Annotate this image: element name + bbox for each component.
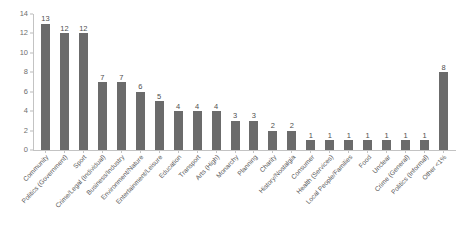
x-axis-tickmark bbox=[197, 150, 198, 153]
x-axis-labels: CommunityPolitics (Government)SportCrime… bbox=[33, 154, 456, 236]
bar-value-label: 2 bbox=[290, 122, 294, 130]
bar-slot: 6 bbox=[131, 14, 150, 150]
plot-area: 1312127765444332211111118 bbox=[33, 14, 456, 150]
bar[interactable]: 1 bbox=[306, 140, 315, 150]
bar-value-label: 4 bbox=[214, 103, 218, 111]
bar-slot: 4 bbox=[188, 14, 207, 150]
bar-slot: 1 bbox=[320, 14, 339, 150]
bar[interactable]: 4 bbox=[193, 111, 202, 150]
x-axis-tickmark bbox=[45, 150, 46, 153]
bar[interactable]: 4 bbox=[174, 111, 183, 150]
bar[interactable]: 5 bbox=[155, 101, 164, 150]
y-axis-tick-label: 10 bbox=[20, 49, 28, 57]
y-axis-tick-label: 0 bbox=[24, 146, 28, 154]
bar-slot: 8 bbox=[434, 14, 453, 150]
bar[interactable]: 7 bbox=[98, 82, 107, 150]
bar-slot: 3 bbox=[226, 14, 245, 150]
bar-value-label: 1 bbox=[385, 132, 389, 140]
bar[interactable]: 3 bbox=[249, 121, 258, 150]
bar-value-label: 1 bbox=[347, 132, 351, 140]
x-axis-tickmark bbox=[235, 150, 236, 153]
x-axis-tickmark bbox=[178, 150, 179, 153]
x-axis-tickmark bbox=[83, 150, 84, 153]
bar-slot: 1 bbox=[377, 14, 396, 150]
x-axis-category-label: Food bbox=[357, 154, 372, 170]
bar-slot: 7 bbox=[112, 14, 131, 150]
y-axis-tick-label: 8 bbox=[24, 69, 28, 77]
bar-slot: 1 bbox=[415, 14, 434, 150]
bar-slot: 2 bbox=[263, 14, 282, 150]
x-axis-tickmark bbox=[405, 150, 406, 153]
bar-slot: 5 bbox=[150, 14, 169, 150]
x-axis-label-slot: Other <1% bbox=[434, 154, 453, 236]
bar-value-label: 4 bbox=[176, 103, 180, 111]
y-axis: 02468101214 bbox=[0, 14, 33, 150]
bar[interactable]: 13 bbox=[41, 24, 50, 150]
bar-slot: 7 bbox=[93, 14, 112, 150]
x-axis-tickmark bbox=[121, 150, 122, 153]
y-axis-tick-label: 2 bbox=[24, 127, 28, 135]
bar[interactable]: 2 bbox=[268, 131, 277, 150]
bar-value-label: 2 bbox=[271, 122, 275, 130]
bar-value-label: 12 bbox=[60, 25, 68, 33]
bar-value-label: 5 bbox=[157, 93, 161, 101]
y-axis-tick-label: 14 bbox=[20, 10, 28, 18]
bar-series: 1312127765444332211111118 bbox=[33, 14, 456, 150]
bar-slot: 1 bbox=[301, 14, 320, 150]
bar[interactable]: 1 bbox=[363, 140, 372, 150]
bar[interactable]: 6 bbox=[136, 92, 145, 150]
bar[interactable]: 3 bbox=[231, 121, 240, 150]
bar-slot: 3 bbox=[244, 14, 263, 150]
bar-value-label: 1 bbox=[328, 132, 332, 140]
bar-value-label: 1 bbox=[422, 132, 426, 140]
bar-value-label: 1 bbox=[403, 132, 407, 140]
x-axis-tickmark bbox=[443, 150, 444, 153]
x-axis-tickmark bbox=[64, 150, 65, 153]
bar[interactable]: 1 bbox=[401, 140, 410, 150]
bar-value-label: 1 bbox=[309, 132, 313, 140]
bar-value-label: 7 bbox=[100, 74, 104, 82]
bar-value-label: 1 bbox=[366, 132, 370, 140]
bar-value-label: 6 bbox=[138, 83, 142, 91]
y-axis-tick-label: 12 bbox=[20, 30, 28, 38]
bar[interactable]: 7 bbox=[117, 82, 126, 150]
bar-value-label: 12 bbox=[79, 25, 87, 33]
bar-value-label: 7 bbox=[119, 74, 123, 82]
bar-chart: 02468101214 1312127765444332211111118 Co… bbox=[0, 0, 460, 236]
bar-value-label: 8 bbox=[441, 64, 445, 72]
bar[interactable]: 12 bbox=[79, 33, 88, 150]
bar[interactable]: 12 bbox=[60, 33, 69, 150]
x-axis-label-slot: Local People/Families bbox=[339, 154, 358, 236]
bar[interactable]: 8 bbox=[439, 72, 448, 150]
bar[interactable]: 1 bbox=[344, 140, 353, 150]
bar[interactable]: 1 bbox=[325, 140, 334, 150]
bar-slot: 12 bbox=[74, 14, 93, 150]
bar-slot: 13 bbox=[36, 14, 55, 150]
bar[interactable]: 2 bbox=[287, 131, 296, 150]
bar-value-label: 3 bbox=[252, 112, 256, 120]
bar-value-label: 3 bbox=[233, 112, 237, 120]
bar[interactable]: 1 bbox=[420, 140, 429, 150]
bar-slot: 1 bbox=[339, 14, 358, 150]
bar[interactable]: 1 bbox=[382, 140, 391, 150]
y-axis-tick-label: 6 bbox=[24, 88, 28, 96]
bar-slot: 1 bbox=[396, 14, 415, 150]
y-axis-tick-label: 4 bbox=[24, 107, 28, 115]
bar-slot: 4 bbox=[169, 14, 188, 150]
bar-value-label: 13 bbox=[41, 15, 49, 23]
bar-value-label: 4 bbox=[195, 103, 199, 111]
bar-slot: 12 bbox=[55, 14, 74, 150]
bar[interactable]: 4 bbox=[212, 111, 221, 150]
bar-slot: 2 bbox=[282, 14, 301, 150]
bar-slot: 1 bbox=[358, 14, 377, 150]
bar-slot: 4 bbox=[207, 14, 226, 150]
